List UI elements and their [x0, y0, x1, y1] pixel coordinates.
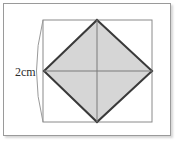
- geometry-figure: 2cm: [0, 0, 178, 143]
- side-measure-label: 2cm: [15, 65, 36, 79]
- measurement-arc: [37, 20, 44, 122]
- figure-canvas: 2cm: [0, 0, 178, 143]
